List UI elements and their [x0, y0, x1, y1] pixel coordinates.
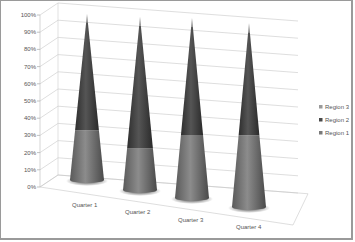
cone-segment-region-3 — [191, 18, 193, 27]
legend: Region 3Region 2Region 1 — [319, 104, 350, 136]
y-tick-label: 40% — [24, 115, 37, 121]
y-tick-label: 30% — [24, 132, 37, 138]
y-tick-label: 10% — [24, 167, 37, 173]
y-tick-label: 90% — [24, 29, 37, 35]
legend-swatch — [319, 105, 323, 109]
gridline — [58, 20, 298, 38]
gridline-side — [40, 123, 58, 135]
gridline-side — [40, 55, 58, 67]
cone-segment-region-2 — [239, 32, 260, 135]
y-tick-label: 80% — [24, 46, 37, 52]
legend-swatch — [319, 118, 323, 122]
legend-label: Region 1 — [325, 130, 350, 136]
cone-segment-region-3 — [248, 23, 250, 32]
gridline-side — [40, 20, 58, 32]
gridline — [58, 55, 298, 73]
y-tick-label: 100% — [21, 12, 37, 18]
cone-4 — [228, 23, 270, 213]
gridline-side — [40, 72, 58, 84]
gridline-side — [40, 3, 58, 15]
gridline-side — [40, 158, 58, 170]
gridline — [58, 37, 298, 55]
cone-base — [70, 177, 104, 183]
cone-segment-region-3 — [86, 14, 88, 22]
gridline-side — [40, 89, 58, 101]
gridline-side — [40, 106, 58, 118]
x-tick-label: Quarter 4 — [236, 224, 262, 230]
cone-chart: 0%10%20%30%40%50%60%70%80%90%100% Quarte… — [0, 0, 355, 242]
cone-3 — [171, 18, 213, 204]
x-tick-label: Quarter 2 — [125, 209, 151, 215]
gridline-side — [40, 141, 58, 153]
cone-base — [232, 204, 266, 210]
cone-2 — [119, 17, 161, 196]
gridline — [58, 3, 298, 21]
cone-segment-region-1 — [175, 135, 209, 198]
y-tick-label: 20% — [24, 150, 37, 156]
y-tick-label: 70% — [24, 64, 37, 70]
cone-segment-region-1 — [232, 135, 266, 207]
y-tick-label: 50% — [24, 98, 37, 104]
legend-swatch — [319, 131, 323, 135]
cone-base — [175, 195, 209, 201]
cone-segment-region-1 — [70, 130, 104, 180]
cone-segment-region-1 — [123, 148, 157, 190]
gridline-side — [40, 37, 58, 49]
cone-segment-region-3 — [139, 17, 141, 26]
y-tick-label: 0% — [27, 184, 36, 190]
y-tick-label: 60% — [24, 81, 37, 87]
legend-label: Region 3 — [325, 104, 350, 110]
cone-segment-region-2 — [75, 22, 99, 130]
cone-1 — [66, 14, 108, 186]
cone-base — [123, 187, 157, 193]
x-tick-label: Quarter 3 — [178, 217, 204, 223]
x-tick-label: Quarter 1 — [72, 202, 98, 208]
legend-label: Region 2 — [325, 117, 350, 123]
